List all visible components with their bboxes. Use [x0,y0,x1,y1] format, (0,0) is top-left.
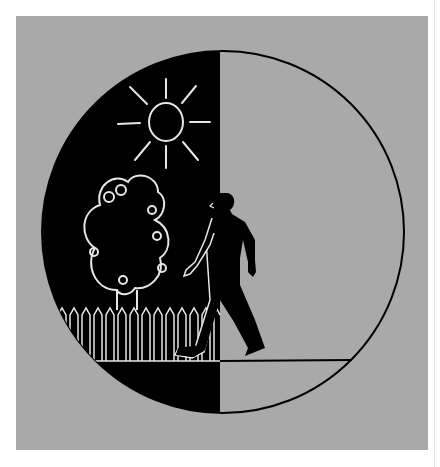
ground-line [220,360,352,361]
illustration [0,0,440,467]
dark-half [0,0,220,467]
